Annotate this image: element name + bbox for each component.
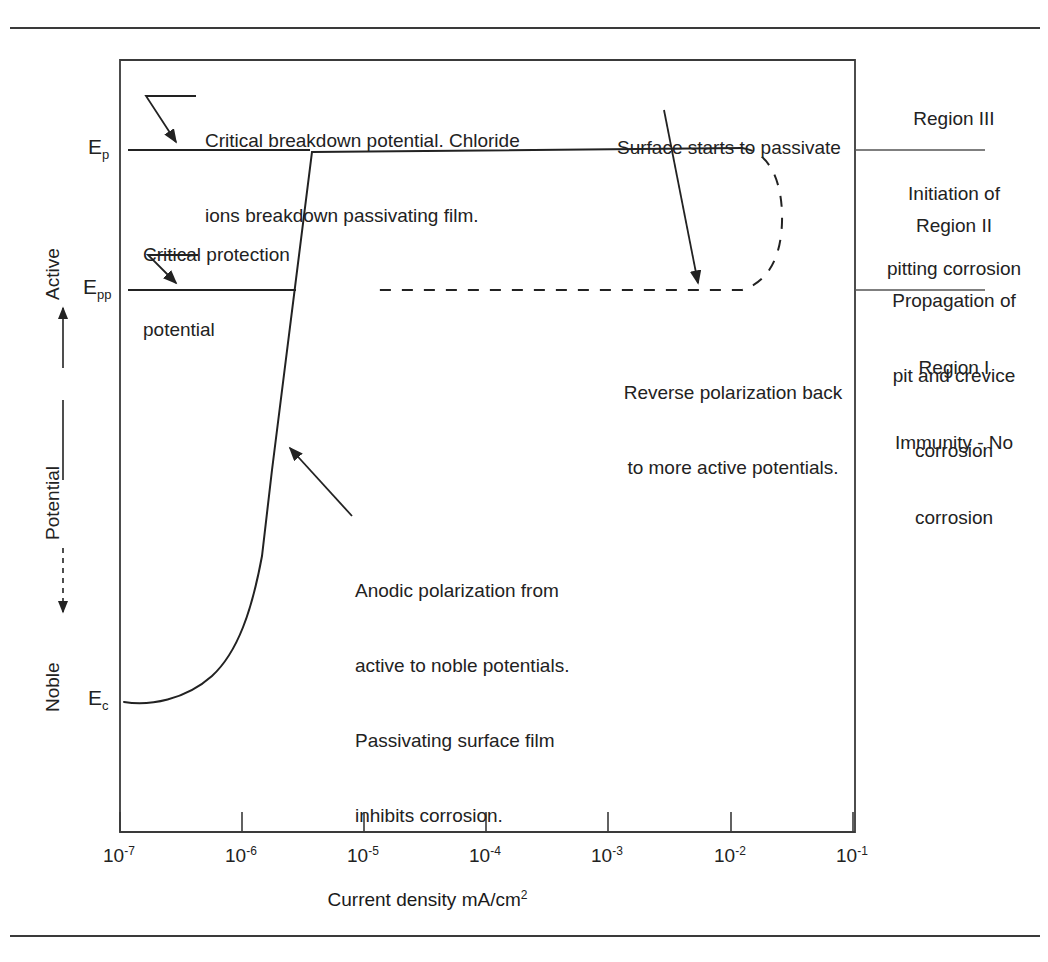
y-axis-title: Potential: [42, 466, 64, 540]
annotation-anodic-line4: inhibits corrosion.: [355, 803, 569, 828]
annotation-anodic: Anodic polarization from active to noble…: [355, 528, 569, 878]
annotation-passivate-line1: Surface starts to passivate: [617, 135, 841, 160]
y-axis-labels: Active Potential Noble: [14, 250, 54, 730]
anodic-leader-arrow: [290, 448, 352, 516]
annotation-reverse: Reverse polarization back to more active…: [608, 330, 858, 530]
annotation-reverse-line2: to more active potentials.: [608, 455, 858, 480]
x-tick-label-2: 10-5: [347, 844, 379, 867]
potential-label-epp: Epp: [83, 275, 111, 302]
region-1-line3: corrosion: [865, 505, 1043, 530]
y-axis-active-label: Active: [42, 248, 64, 300]
x-tick-label-6: 10-1: [836, 844, 868, 867]
annotation-anodic-line3: Passivating surface film: [355, 728, 569, 753]
x-tick-label-4: 10-3: [591, 844, 623, 867]
polarization-diagram: Ep Epp Ec Critical breakdown potential. …: [0, 0, 1048, 962]
potential-label-ec: Ec: [88, 686, 109, 713]
annotation-passivate: Surface starts to passivate: [617, 85, 841, 210]
region-1-title: Region I: [865, 355, 1043, 380]
annotation-protection-line1: Critical protection: [143, 242, 290, 267]
x-tick-label-0: 10-7: [103, 844, 135, 867]
region-1-line2: Immunity - No: [865, 430, 1043, 455]
annotation-protection-line2: potential: [143, 317, 290, 342]
potential-label-ep: Ep: [88, 135, 109, 162]
annotation-anodic-line2: active to noble potentials.: [355, 653, 569, 678]
breakdown-leader-arrow: [146, 96, 196, 142]
x-axis-title-text: Current density mA/cm: [328, 889, 521, 910]
annotation-breakdown-line1: Critical breakdown potential. Chloride: [205, 128, 520, 153]
x-axis-title-sup: 2: [521, 888, 528, 902]
x-tick-label-1: 10-6: [225, 844, 257, 867]
region-label-1: Region I Immunity - No corrosion: [865, 305, 1043, 580]
annotation-protection: Critical protection potential: [143, 192, 290, 392]
x-axis-title: Current density mA/cm2: [0, 888, 855, 911]
y-axis-noble-label: Noble: [42, 662, 64, 712]
x-tick-label-5: 10-2: [714, 844, 746, 867]
region-2-title: Region II: [865, 213, 1043, 238]
x-tick-label-3: 10-4: [469, 844, 501, 867]
region-3-title: Region III: [865, 106, 1043, 131]
annotation-anodic-line1: Anodic polarization from: [355, 578, 569, 603]
annotation-reverse-line1: Reverse polarization back: [608, 380, 858, 405]
